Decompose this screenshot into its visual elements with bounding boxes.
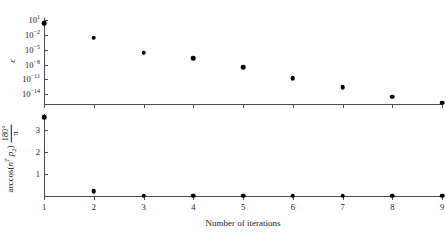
x-tick-mark [44,104,45,108]
y-tick-mark [44,79,48,80]
paren-close: ) [5,145,15,148]
y-tick-label: 10−14 [4,90,40,99]
data-point-marker [241,65,246,70]
y-axis-spine [44,18,45,104]
y-tick-mark [44,65,48,66]
x-tick-mark [293,104,294,108]
x-tick-label: 1 [42,203,46,212]
data-point-marker [141,193,146,198]
data-point-marker [290,193,295,198]
panel-angle-vs-iterations: 123123456789 [44,114,442,196]
arccos-function: arccos [5,170,15,193]
data-point-marker [91,189,96,194]
figure-convergence-plot: 10110−210−510−810−1110−14 ε 123123456789… [0,0,446,235]
plot-area-top: 10110−210−510−810−1110−14 [44,18,442,104]
x-tick-label: 4 [191,203,195,212]
y-tick-mark [44,94,48,95]
data-point-marker [440,193,445,198]
x-tick-mark [44,196,45,200]
x-tick-label: 6 [291,203,295,212]
data-point-marker [440,100,445,105]
x-tick-label: 7 [340,203,344,212]
paren-open: ( [5,167,15,170]
x-tick-mark [144,104,145,108]
y-tick-label: 10−5 [4,46,40,55]
arccos-expression: arccos(nT p2) 180°π [5,123,15,192]
x-tick-label: 9 [440,203,444,212]
x-tick-label: 3 [141,203,145,212]
panel-error-vs-iterations: 10110−210−510−810−1110−14 [44,18,442,104]
vector-p: p [5,152,15,157]
y-tick-mark [44,174,48,175]
p-subscript-index: 2 [10,148,17,151]
data-point-marker [42,21,47,26]
fraction-denominator: π [12,124,21,142]
epsilon-symbol: ε [7,59,17,63]
data-point-marker [241,193,246,198]
data-point-marker [141,50,146,55]
y-tick-mark [44,35,48,36]
x-tick-label: 2 [92,203,96,212]
y-tick-label: 10−11 [4,75,40,84]
x-axis-label: Number of iterations [206,219,281,228]
x-tick-mark [193,104,194,108]
vector-n: n [5,162,15,167]
x-tick-mark [343,104,344,108]
y-tick-label: 101 [4,16,40,25]
x-tick-label: 5 [241,203,245,212]
data-point-marker [390,94,395,99]
y-axis-spine [44,114,45,196]
data-point-marker [390,193,395,198]
data-point-marker [340,193,345,198]
data-point-marker [191,193,196,198]
y-tick-label: 10−2 [4,31,40,40]
y-tick-mark [44,130,48,131]
data-point-marker [191,56,196,61]
data-point-marker [42,115,47,120]
x-tick-mark [392,104,393,108]
plot-area-bottom: 123123456789 [44,114,442,196]
data-point-marker [340,85,345,90]
degrees-per-radian-fraction: 180°π [2,124,20,142]
data-point-marker [91,35,96,40]
x-tick-label: 8 [390,203,394,212]
y-tick-mark [44,50,48,51]
y-axis-label-bottom: arccos(nT p2) 180°π [2,123,20,192]
transpose-superscript: T [3,158,10,162]
x-tick-mark [243,104,244,108]
data-point-marker [290,76,295,81]
x-tick-mark [94,104,95,108]
x-tick-mark [94,196,95,200]
y-axis-label-top: ε [8,59,17,63]
y-tick-mark [44,152,48,153]
